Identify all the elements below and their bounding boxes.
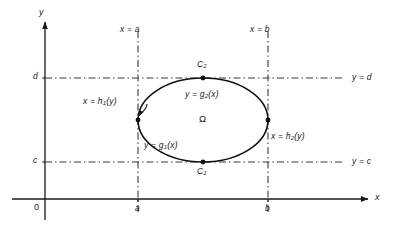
curve-label-right: x = h2(y) — [271, 132, 305, 141]
curve-label-left-post: (y) — [106, 96, 117, 106]
curve-label-upper-pre: y = g — [185, 89, 205, 99]
x-tick-label-b: b — [265, 204, 270, 213]
figure-canvas: y x 0 d c a b x = a x = b y = d y = c Ω … — [0, 0, 400, 235]
point-c1-marker — [201, 160, 206, 165]
curve-label-left: x = h1(y) — [83, 97, 117, 106]
guide-label-x-equals-b: x = b — [250, 25, 270, 34]
origin-label: 0 — [34, 203, 39, 212]
point-left-marker — [136, 118, 141, 123]
curve-label-right-post: (y) — [294, 131, 305, 141]
guide-label-y-equals-c: y = c — [352, 157, 371, 166]
curve-label-lower-post: (x) — [167, 140, 178, 150]
curve-label-lower-pre: y = g — [144, 140, 164, 150]
point-label-c2: C2 — [197, 60, 207, 69]
curve-label-right-pre: x = h — [271, 131, 291, 141]
guide-label-y-equals-d: y = d — [352, 73, 372, 82]
point-label-c2-sub: 2 — [203, 63, 207, 69]
curve-label-upper: y = g2(x) — [185, 90, 219, 99]
point-right-marker — [266, 118, 271, 123]
x-axis-label: x — [375, 193, 380, 202]
curve-label-lower: y = g1(x) — [144, 141, 178, 150]
guide-label-x-equals-a: x = a — [120, 25, 140, 34]
point-c2-marker — [201, 76, 206, 81]
curve-label-left-pre: x = h — [83, 96, 103, 106]
region-label-omega: Ω — [199, 114, 206, 124]
y-axis-label: y — [39, 8, 44, 17]
x-tick-label-a: a — [135, 204, 140, 213]
point-label-c1-sub: 1 — [203, 170, 207, 176]
y-tick-label-c: c — [33, 156, 37, 165]
y-tick-label-d: d — [33, 72, 38, 81]
point-label-c1: C1 — [197, 167, 207, 176]
curve-label-upper-post: (x) — [208, 89, 219, 99]
